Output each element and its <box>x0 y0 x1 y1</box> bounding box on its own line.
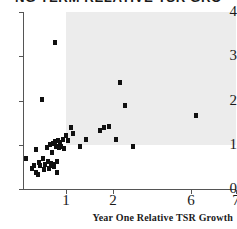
data-point <box>194 113 198 118</box>
y-tick-label: 2 <box>221 93 237 108</box>
chart-title: NG TERM RELATIVE TSR GRO <box>0 0 237 5</box>
data-point <box>40 97 44 102</box>
data-point <box>66 138 70 143</box>
y-tick-label: 3 <box>221 48 237 63</box>
data-point <box>53 40 57 45</box>
y-tick-mark <box>19 56 24 57</box>
data-point <box>41 156 45 161</box>
data-point <box>102 125 106 130</box>
x-axis-title: Year One Relative TSR Growth <box>0 212 233 223</box>
scatter-chart: NG TERM RELATIVE TSR GRO 01234 1267 Year… <box>0 0 237 229</box>
y-tick-mark <box>19 145 24 146</box>
data-point <box>50 150 54 155</box>
data-point <box>62 146 66 151</box>
data-point <box>131 144 135 149</box>
x-tick-label: 2 <box>103 193 123 208</box>
x-axis-line <box>23 189 236 190</box>
y-tick-label: 1 <box>221 137 237 152</box>
y-tick-mark <box>19 101 24 102</box>
y-tick-label: 4 <box>221 4 237 19</box>
data-point <box>52 164 56 169</box>
data-point <box>55 170 59 175</box>
x-tick-label: 1 <box>56 193 76 208</box>
data-point <box>78 144 82 149</box>
data-point <box>42 167 46 172</box>
shaded-benchmark-region <box>66 12 236 145</box>
data-point <box>84 137 88 142</box>
data-point <box>55 159 59 164</box>
data-point <box>118 80 122 85</box>
data-point <box>34 147 38 152</box>
data-point <box>69 125 73 130</box>
x-tick-label: 6 <box>181 193 201 208</box>
y-tick-mark <box>19 12 24 13</box>
data-point <box>71 131 75 136</box>
data-point <box>107 124 111 129</box>
x-tick-label: 7 <box>226 193 237 208</box>
data-point <box>114 137 118 142</box>
data-point <box>24 156 28 161</box>
data-point <box>123 103 127 108</box>
data-point <box>36 172 40 177</box>
y-tick-mark <box>19 189 24 190</box>
data-point <box>32 163 36 168</box>
